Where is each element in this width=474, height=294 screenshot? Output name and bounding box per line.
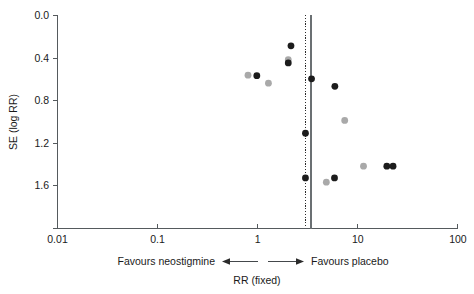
x-tick-label-2: 1	[255, 233, 261, 245]
data-point	[383, 163, 390, 170]
data-point	[302, 175, 309, 182]
data-point	[331, 83, 338, 90]
data-point	[308, 75, 315, 82]
favours-right-label: Favours placebo	[311, 255, 389, 267]
data-point	[265, 80, 272, 87]
plot-background	[0, 0, 474, 294]
data-point	[253, 72, 260, 79]
funnel-plot-svg: 0.0 0.4 0.8 1.2 1.6 SE (log RR) 0.01 0.1…	[0, 0, 474, 294]
funnel-plot-figure: 0.0 0.4 0.8 1.2 1.6 SE (log RR) 0.01 0.1…	[0, 0, 474, 294]
favours-left-label: Favours neostigmine	[118, 255, 216, 267]
data-point	[360, 163, 367, 170]
x-tick-label-1: 0.1	[150, 233, 165, 245]
data-point	[341, 117, 348, 124]
x-tick-label-0: 0.01	[47, 233, 68, 245]
y-tick-label-1: 0.4	[34, 52, 49, 64]
x-tick-label-4: 100	[449, 233, 467, 245]
data-point	[288, 42, 295, 49]
data-point	[331, 175, 338, 182]
data-point	[390, 163, 397, 170]
data-point	[285, 59, 292, 66]
data-point	[323, 179, 330, 186]
y-tick-label-4: 1.6	[34, 179, 49, 191]
data-point	[302, 130, 309, 137]
y-tick-label-0: 0.0	[34, 9, 49, 21]
y-tick-label-3: 1.2	[34, 137, 49, 149]
y-tick-label-2: 0.8	[34, 94, 49, 106]
data-point	[245, 72, 252, 79]
y-axis-title: SE (log RR)	[7, 94, 19, 150]
x-axis-title: RR (fixed)	[233, 274, 280, 286]
x-tick-label-3: 10	[352, 233, 364, 245]
